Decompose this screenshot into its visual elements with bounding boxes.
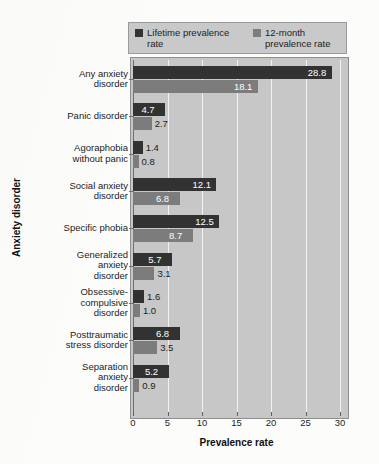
bar-value-label: 4.7 [141, 103, 154, 116]
bar-group: 4.72.7 [133, 103, 340, 130]
category-label: Agoraphobia without panic [28, 143, 128, 164]
category-label: Panic disorder [28, 111, 128, 122]
category-label: Posttraumatic stress disorder [28, 330, 128, 351]
x-axis-tick-label: 5 [165, 417, 170, 428]
bar-value-label: 1.4 [146, 141, 159, 154]
chart-page: Lifetime prevalence rate 12-month preval… [0, 0, 379, 464]
bar-value-label: 1.6 [147, 290, 160, 303]
bar-value-label: 2.7 [155, 117, 168, 130]
legend-swatch-lifetime-icon [135, 29, 143, 37]
category-label: Social anxiety disorder [28, 181, 128, 202]
bar-12-month[interactable] [133, 155, 139, 168]
bar-lifetime[interactable] [133, 141, 143, 154]
x-axis-tick-label: 10 [197, 417, 208, 428]
bar-group: 1.40.8 [133, 141, 340, 168]
category-axis-labels: Any anxiety disorderPanic disorderAgorap… [28, 60, 128, 412]
bar-value-label: 5.7 [148, 253, 161, 266]
category-label: Obsessive- compulsive disorder [28, 287, 128, 319]
bar-value-label: 0.9 [142, 379, 155, 392]
bar-group: 5.20.9 [133, 365, 340, 392]
category-label: Any anxiety disorder [28, 69, 128, 90]
bar-group: 12.58.7 [133, 215, 340, 242]
x-axis-tick-label: 30 [335, 417, 346, 428]
legend-label-12-month: 12-month prevalence rate [265, 27, 330, 49]
category-label: Specific phobia [28, 223, 128, 234]
x-axis-tick-label: 25 [300, 417, 311, 428]
bar-value-label: 6.8 [156, 327, 169, 340]
chart-legend: Lifetime prevalence rate 12-month preval… [128, 22, 347, 54]
gridline [340, 60, 341, 412]
bar-value-label: 1.0 [143, 304, 156, 317]
bar-value-label: 3.1 [157, 267, 170, 280]
legend-label-lifetime: Lifetime prevalence rate [147, 27, 229, 49]
bar-value-label: 8.7 [169, 229, 182, 242]
bar-group: 6.83.5 [133, 327, 340, 354]
bar-value-label: 6.8 [156, 192, 169, 205]
category-label: Separation anxiety disorder [28, 362, 128, 394]
x-axis: 051015202530 [133, 412, 340, 420]
x-axis-tick [237, 412, 238, 416]
category-label: Generalized anxiety disorder [28, 250, 128, 282]
bar-group: 1.61.0 [133, 290, 340, 317]
y-axis-title: Anxiety disorder [11, 158, 22, 278]
bar-value-label: 12.1 [192, 178, 211, 191]
bar-value-label: 12.5 [195, 215, 214, 228]
x-axis-tick [306, 412, 307, 416]
legend-entry-lifetime: Lifetime prevalence rate [135, 27, 253, 49]
plot-area: 28.818.14.72.71.40.812.16.812.58.75.73.1… [133, 60, 340, 412]
legend-swatch-12-month-icon [253, 29, 261, 37]
bar-12-month[interactable] [133, 267, 154, 280]
bar-lifetime[interactable] [133, 290, 144, 303]
x-axis-tick [202, 412, 203, 416]
bar-value-label: 3.5 [160, 341, 173, 354]
x-axis-tick [168, 412, 169, 416]
x-axis-tick [340, 412, 341, 416]
bar-value-label: 28.8 [308, 66, 327, 79]
x-axis-tick [271, 412, 272, 416]
x-axis-title: Prevalence rate [133, 437, 340, 448]
bar-12-month[interactable] [133, 341, 157, 354]
bar-value-label: 0.8 [142, 155, 155, 168]
bar-lifetime[interactable] [133, 66, 332, 79]
bar-12-month[interactable] [133, 304, 140, 317]
bar-group: 12.16.8 [133, 178, 340, 205]
x-axis-tick-label: 15 [231, 417, 242, 428]
bar-group: 28.818.1 [133, 66, 340, 93]
bar-value-label: 18.1 [234, 80, 253, 93]
x-axis-tick [133, 412, 134, 416]
bar-12-month[interactable] [133, 117, 152, 130]
bar-12-month[interactable] [133, 229, 193, 242]
bar-group: 5.73.1 [133, 253, 340, 280]
x-axis-tick-label: 20 [266, 417, 277, 428]
bar-value-label: 5.2 [145, 365, 158, 378]
bar-12-month[interactable] [133, 379, 139, 392]
x-axis-tick-label: 0 [130, 417, 135, 428]
legend-entry-12-month: 12-month prevalence rate [253, 27, 330, 49]
